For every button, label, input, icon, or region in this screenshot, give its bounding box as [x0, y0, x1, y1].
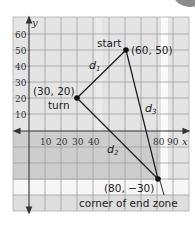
- svg-text:40: 40: [88, 137, 100, 147]
- svg-text:30: 30: [15, 78, 27, 88]
- corner-decoration: [171, 0, 195, 7]
- coordinate-diagram: y x 60 50 40 30 20 10 10 20 30 40 80 90 …: [0, 0, 195, 227]
- end-zone-label: corner of end zone: [79, 197, 178, 209]
- x-axis-label: x: [182, 136, 188, 147]
- svg-text:80: 80: [153, 137, 165, 147]
- svg-text:10: 10: [15, 110, 27, 120]
- start-coord: (60, 50): [131, 44, 173, 56]
- svg-text:50: 50: [15, 46, 27, 56]
- end-zone-coord: (80, −30): [104, 182, 154, 194]
- svg-text:30: 30: [72, 137, 84, 147]
- svg-text:90: 90: [167, 137, 179, 147]
- point-start: [123, 47, 129, 53]
- svg-text:60: 60: [15, 30, 27, 40]
- point-turn: [74, 95, 80, 101]
- svg-text:10: 10: [40, 137, 52, 147]
- turn-coord: (30, 20): [33, 85, 75, 97]
- start-label: start: [97, 37, 121, 49]
- point-end-zone-corner: [155, 176, 161, 182]
- turn-label: turn: [48, 99, 70, 111]
- svg-text:20: 20: [15, 94, 27, 104]
- svg-text:40: 40: [15, 62, 27, 72]
- y-axis-label: y: [31, 17, 38, 28]
- svg-text:20: 20: [56, 137, 68, 147]
